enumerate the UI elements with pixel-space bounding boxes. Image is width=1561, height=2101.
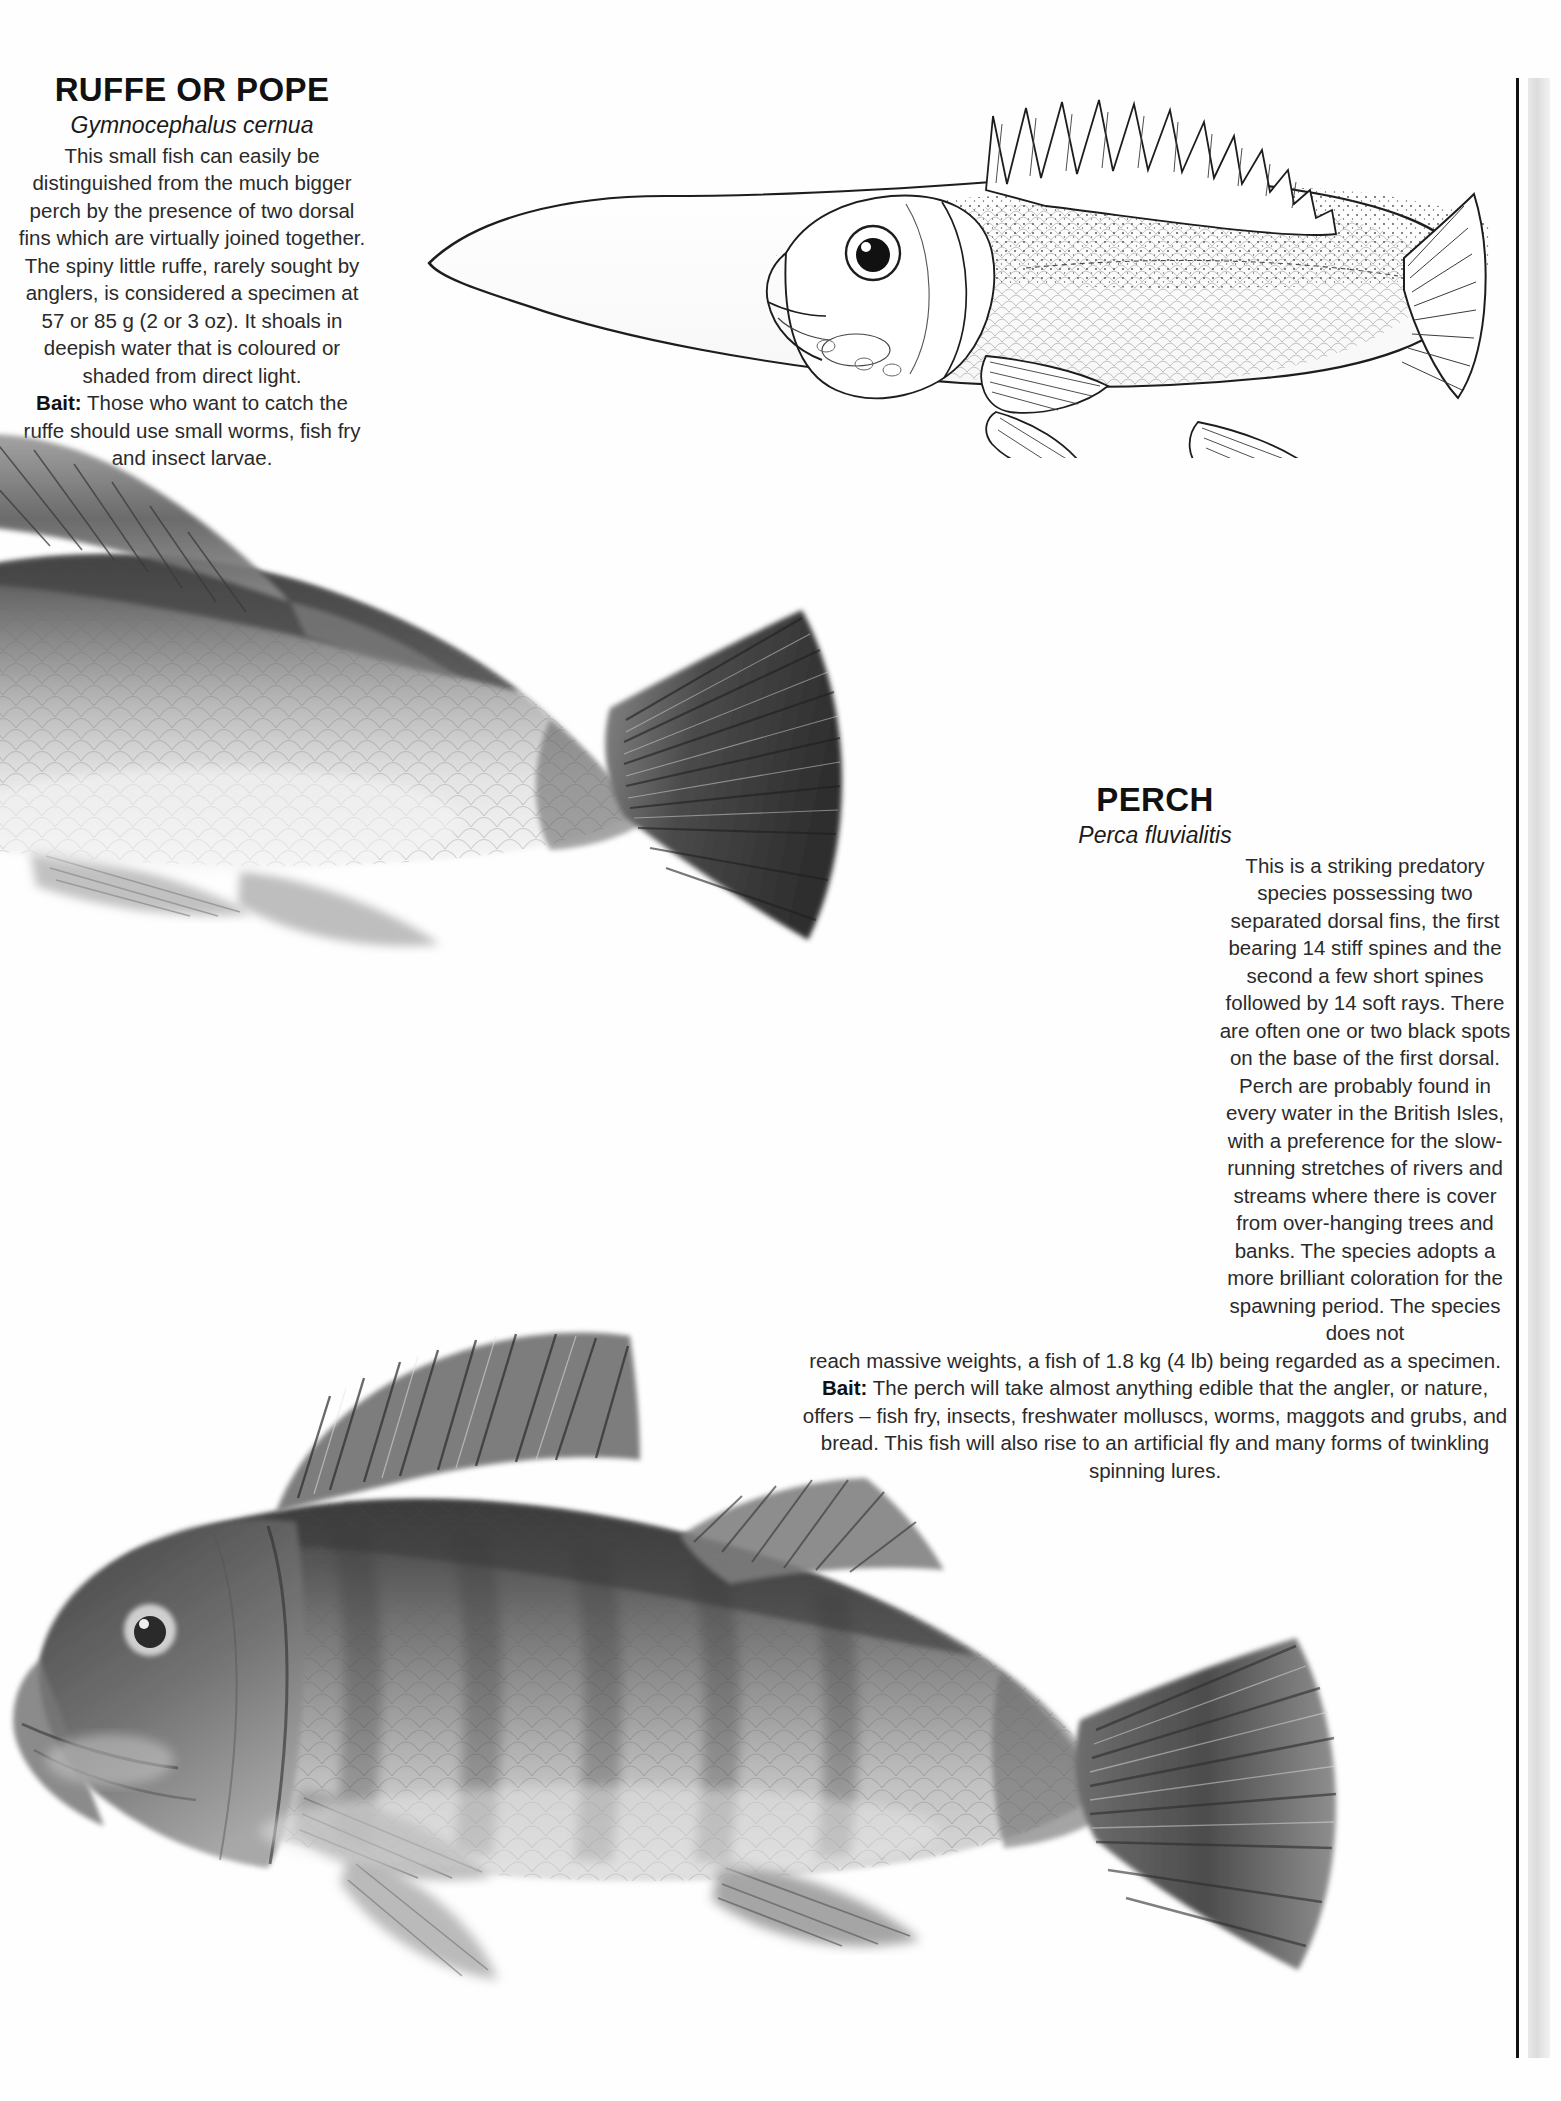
perch-bait-label: Bait: [822, 1376, 868, 1399]
perch-latin-name: Perca fluvialitis [795, 822, 1515, 848]
perch-title: PERCH [795, 782, 1515, 818]
page-gutter-rule [1516, 78, 1519, 2058]
perch-description-wide: reach massive weights, a fish of 1.8 kg … [795, 1347, 1515, 1375]
ruffe-title: RUFFE OR POPE [16, 72, 368, 108]
perch-bait-paragraph: Bait: The perch will take almost anythin… [795, 1374, 1515, 1484]
perch-description-narrow: This is a striking predatory species pos… [1215, 852, 1515, 1347]
ruffe-latin-name: Gymnocephalus cernua [16, 112, 368, 138]
ruffe-description: This small fish can easily be distinguis… [16, 142, 368, 390]
ruffe-entry: RUFFE OR POPE Gymnocephalus cernua This … [16, 72, 368, 472]
perch-bait-text: The perch will take almost anything edib… [803, 1376, 1508, 1482]
book-page: RUFFE OR POPE Gymnocephalus cernua This … [0, 0, 1561, 2101]
ruffe-illustration [386, 78, 1491, 458]
perch-top-illustration [0, 420, 890, 1000]
page-gutter-shadow [1528, 78, 1550, 2058]
ruffe-bait-label: Bait: [36, 391, 82, 414]
perch-entry: PERCH Perca fluvialitis This is a striki… [795, 782, 1515, 1484]
